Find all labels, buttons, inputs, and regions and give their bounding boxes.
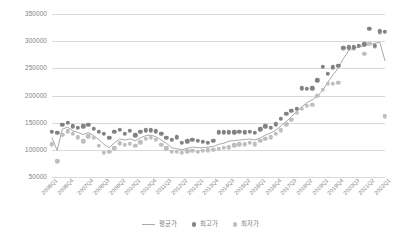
legend-dot-max-icon [192, 222, 197, 227]
y-axis-tick-label: 150000 [25, 119, 47, 125]
plot-area [52, 14, 385, 177]
legend-item-max[interactable]: 최고가 [192, 221, 218, 227]
y-axis-tick-label: 350000 [25, 11, 47, 17]
x-axis-tick-label: 2009Q2 [108, 178, 126, 196]
max-price-point [383, 30, 387, 34]
x-axis-tick-label: 2008Q3 [93, 178, 111, 196]
x-axis-tick-label: 2017Q3 [280, 178, 298, 196]
x-axis-labels: 2006Q12006Q42007Q42008Q32009Q22010Q12010… [52, 178, 385, 218]
min-price-point [383, 114, 387, 118]
x-axis-tick-label: 2013Q4 [202, 178, 220, 196]
x-axis-tick-label: 2022Q1 [374, 178, 392, 196]
x-axis-tick-label: 2019Q1 [311, 178, 329, 196]
chart-legend: 평균가 최고가 최저가 [0, 221, 401, 227]
legend-label-average: 평균가 [159, 221, 177, 227]
legend-dot-min-icon [233, 222, 238, 227]
x-axis-tick-label: 2012Q2 [171, 178, 189, 196]
x-axis-tick-label: 2018Q2 [296, 178, 314, 196]
legend-item-min[interactable]: 최저가 [233, 221, 259, 227]
x-axis-tick-label: 2015Q2 [233, 178, 251, 196]
y-axis-tick-label: 250000 [25, 65, 47, 71]
legend-item-average[interactable]: 평균가 [142, 221, 177, 227]
y-axis-tick-label: 200000 [25, 92, 47, 98]
x-axis-tick-label: 2013Q1 [186, 178, 204, 196]
y-axis-tick-label: 100000 [25, 147, 47, 153]
legend-label-max: 최고가 [200, 221, 218, 227]
legend-label-min: 최저가 [241, 221, 259, 227]
x-axis-tick-label: 2014Q3 [218, 178, 236, 196]
x-axis-tick-label: 2007Q4 [77, 178, 95, 196]
y-axis-labels: 5000010000015000020000025000030000035000… [0, 0, 52, 200]
price-chart: 5000010000015000020000025000030000035000… [0, 0, 401, 241]
x-axis-tick-label: 2021Q2 [358, 178, 376, 196]
y-axis-tick-label: 300000 [25, 38, 47, 44]
x-axis-tick-label: 2010Q4 [140, 178, 158, 196]
legend-line-icon [142, 224, 155, 225]
y-axis-tick-label: 50000 [29, 174, 47, 180]
x-axis-tick-label: 2006Q4 [56, 178, 74, 196]
